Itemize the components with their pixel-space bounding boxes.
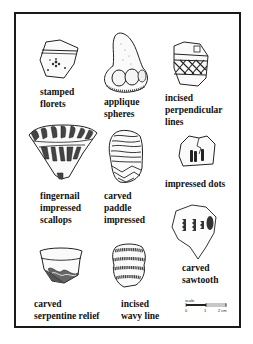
sherd-label: incised wavy line: [121, 298, 159, 322]
scale-tick-2: 2 cm: [218, 308, 227, 313]
sherd-incised-perpendicular-lines-drawing: [170, 40, 212, 88]
sherd-label: fingernail impressed scallops: [40, 190, 81, 226]
scale-bar: scale 0 1 2 cm: [185, 298, 227, 314]
sherd-label: stamped florets: [40, 86, 74, 110]
sherd-label: impressed dots: [165, 178, 225, 190]
scale-tick-0: 0: [185, 308, 187, 313]
sherd-label: carved sawtooth: [182, 262, 218, 286]
sherd-label: carved paddle impressed: [104, 190, 145, 226]
sherd-label: incised perpendicular lines: [165, 92, 223, 128]
sherd-fingernail-impressed-scallops-drawing: [27, 123, 99, 181]
sherd-label: applique spheres: [104, 96, 139, 120]
sherd-incised-wavy-line-drawing: [110, 243, 148, 289]
sherd-carved-serpentine-relief-drawing: [38, 247, 84, 285]
sherd-applique-spheres-drawing: [101, 30, 151, 94]
sherd-impressed-dots-drawing: [177, 134, 217, 168]
scale-tick-1: 1: [204, 308, 206, 313]
sherd-carved-sawtooth-drawing: [170, 203, 220, 261]
sherd-label: carved serpentine relief: [34, 298, 100, 322]
sherd-carved-paddle-impressed-drawing: [108, 128, 144, 184]
sherd-stamped-florets-drawing: [38, 38, 84, 80]
